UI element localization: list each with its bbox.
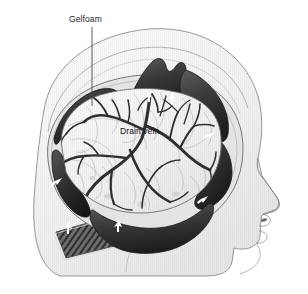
- label-drain-vein: Drain vein: [120, 126, 159, 136]
- craniotomy-illustration: [0, 0, 308, 294]
- medical-illustration-figure: Gelfoam Drain vein: [0, 0, 308, 294]
- label-gelfoam: Gelfoam: [69, 14, 102, 24]
